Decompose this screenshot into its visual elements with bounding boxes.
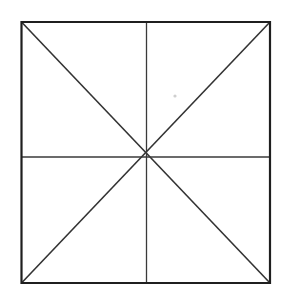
scan-speck-artifact — [173, 94, 176, 97]
geometric-figure — [0, 0, 281, 291]
figure-canvas — [0, 0, 281, 291]
